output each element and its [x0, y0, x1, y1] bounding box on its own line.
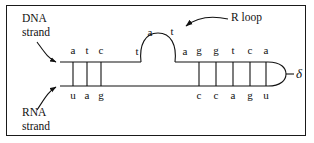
dna-strand-label-line2: strand	[22, 26, 50, 39]
rna-base-right-4: u	[259, 89, 273, 101]
loop-base-1: a	[143, 26, 157, 38]
loop-base-0: t	[130, 45, 144, 57]
delta-symbol: δ	[296, 66, 302, 82]
dna-base-right-0: g	[192, 44, 206, 56]
rna-base-right-3: g	[243, 89, 257, 101]
rna-base-left-0: u	[66, 89, 80, 101]
dna-base-left-1: t	[80, 44, 94, 56]
dna-base-left-2: c	[94, 44, 108, 56]
rna-base-left-2: g	[94, 89, 108, 101]
rna-base-left-1: a	[80, 89, 94, 101]
rna-base-right-1: c	[209, 89, 223, 101]
dna-base-right-3: c	[243, 44, 257, 56]
rna-base-right-0: c	[192, 89, 206, 101]
strand-end-cap	[268, 62, 286, 86]
dna-base-right-2: t	[226, 44, 240, 56]
rloop-leader-arrow	[186, 17, 228, 26]
dna-strand-label-line1: DNA	[22, 12, 47, 25]
rna-strand-label-line1: RNA	[22, 106, 46, 119]
dna-base-right-4: a	[259, 44, 273, 56]
loop-base-2: t	[165, 25, 179, 37]
dna-base-left-0: a	[66, 44, 80, 56]
rna-base-right-2: a	[226, 89, 240, 101]
loop-base-3: a	[178, 45, 192, 57]
r-loop-label: R loop	[231, 11, 262, 24]
rna-strand-label-line2: strand	[22, 120, 50, 133]
dna-base-right-1: g	[209, 44, 223, 56]
r-loop-figure: DNA strand RNA strand R loop δ a t c u a…	[0, 0, 314, 143]
dna-leader-arrow	[37, 42, 56, 62]
